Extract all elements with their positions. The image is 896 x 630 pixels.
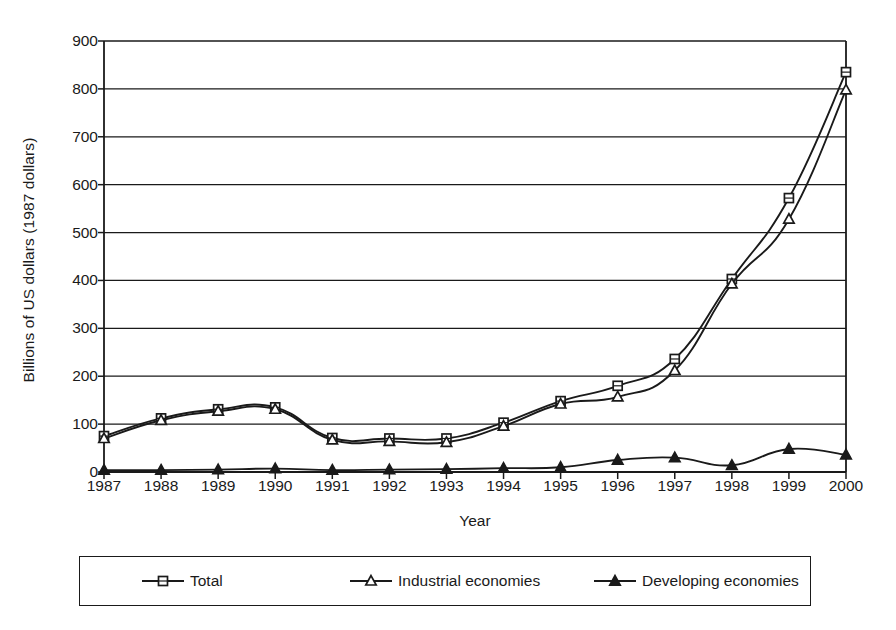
legend-marker-open-triangle-icon (348, 573, 394, 589)
series-developing-economies (99, 443, 852, 474)
x-tick-label: 1996 (588, 478, 648, 494)
chart-legend: TotalIndustrial economiesDeveloping econ… (79, 556, 811, 606)
plot-area (0, 0, 896, 630)
legend-item[interactable]: Total (140, 573, 223, 589)
legend-marker-open-square-icon (140, 573, 186, 589)
legend-label: Industrial economies (398, 573, 540, 589)
series-industrial-economies (99, 84, 851, 446)
x-axis-title-text: Year (459, 512, 490, 529)
x-tick-label: 1994 (474, 478, 534, 494)
x-tick-label: 1993 (416, 478, 476, 494)
series-line (104, 72, 846, 441)
series-line (104, 90, 846, 444)
x-tick-label: 1990 (245, 478, 305, 494)
data-point (784, 214, 794, 223)
x-tick-label: 1991 (302, 478, 362, 494)
legend-label: Developing economies (642, 573, 799, 589)
chart-figure: Billions of US dollars (1987 dollars) 01… (0, 0, 896, 630)
x-tick-label: 2000 (816, 478, 876, 494)
x-tick-label: 1987 (74, 478, 134, 494)
legend-item[interactable]: Developing economies (592, 573, 799, 589)
x-tick-label: 1988 (131, 478, 191, 494)
x-tick-label: 1992 (359, 478, 419, 494)
x-tick-label: 1989 (188, 478, 248, 494)
x-tick-label: 1997 (645, 478, 705, 494)
series-total (100, 68, 851, 443)
x-tick-label: 1995 (531, 478, 591, 494)
legend-marker-filled-triangle-icon (592, 573, 638, 589)
legend-label: Total (190, 573, 223, 589)
legend-item[interactable]: Industrial economies (348, 573, 540, 589)
x-tick-label: 1998 (702, 478, 762, 494)
x-tick-label: 1999 (759, 478, 819, 494)
x-axis-title: Year (104, 512, 846, 530)
